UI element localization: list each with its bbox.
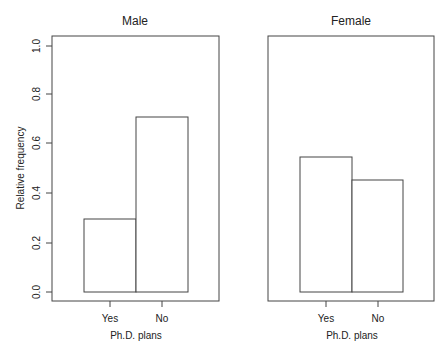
male-panel: Male 0.0 0.2 0.4 0.6 0.8 1.0 Relative fr… [15,14,219,341]
male-x-axis [110,301,162,307]
y-tick-label: 0.6 [31,136,42,150]
female-panel-title: Female [331,14,371,28]
bar-female-no [352,180,403,292]
y-tick-label: 0.0 [31,285,42,299]
male-y-axis [46,46,52,292]
bar-male-no [136,117,188,292]
y-tick-label: 0.8 [31,87,42,101]
chart-canvas: Male 0.0 0.2 0.4 0.6 0.8 1.0 Relative fr… [0,0,447,354]
y-tick-label: 0.4 [31,186,42,200]
x-tick-label-yes: Yes [102,313,118,324]
x-tick-label-no: No [372,313,385,324]
bar-female-yes [300,157,352,292]
x-tick-label-yes: Yes [318,313,334,324]
female-panel: Female Yes No Ph.D. plans [268,14,434,341]
male-panel-title: Male [122,14,148,28]
x-axis-label: Ph.D. plans [326,330,378,341]
y-tick-label: 0.2 [31,236,42,250]
bar-male-yes [84,219,136,292]
y-tick-label: 1.0 [31,39,42,53]
y-axis-label: Relative frequency [15,127,26,210]
x-axis-label: Ph.D. plans [110,330,162,341]
female-x-axis [326,301,378,307]
x-tick-label-no: No [156,313,169,324]
